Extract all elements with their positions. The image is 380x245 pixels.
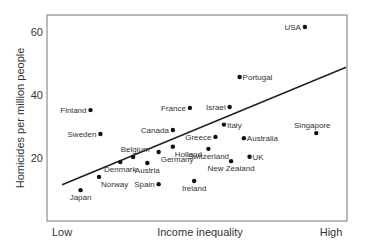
y-tick-label: 60: [31, 26, 43, 38]
data-point-marker: [188, 106, 192, 110]
data-point-label: Israel: [206, 103, 226, 112]
data-point-marker: [171, 128, 175, 132]
data-point-label: New Zealand: [208, 164, 255, 173]
data-point-marker: [97, 175, 101, 179]
y-axis-label: Homicides per million people: [14, 48, 26, 189]
data-points: USAPortugalFinlandFranceIsraelSwedenCana…: [60, 23, 331, 202]
data-point-label: Finland: [60, 106, 86, 115]
data-point-label: Canada: [141, 126, 170, 135]
data-point-label: Italy: [227, 121, 242, 130]
data-point-marker: [156, 182, 160, 186]
point-japan: Japan: [70, 188, 92, 202]
point-norway: Norway: [97, 175, 128, 189]
data-point-label: Singapore: [294, 121, 331, 130]
data-point-marker: [145, 161, 149, 165]
data-point-label: Norway: [101, 180, 128, 189]
data-point-marker: [213, 135, 217, 139]
point-italy: Italy: [222, 121, 242, 130]
data-point-label: UK: [253, 153, 265, 162]
data-point-label: Ireland: [182, 184, 206, 193]
point-denmark: Denmark: [104, 160, 137, 174]
data-point-label: Austria: [135, 166, 160, 175]
point-israel: Israel: [206, 103, 232, 112]
data-point-marker: [156, 150, 160, 154]
point-austria: Austria: [135, 161, 160, 175]
data-point-marker: [237, 75, 241, 79]
data-point-label: Spain: [134, 180, 154, 189]
data-point-label: Germany: [161, 155, 194, 164]
data-point-marker: [229, 159, 233, 163]
point-new-zealand: New Zealand: [208, 159, 255, 173]
x-tick-low: Low: [52, 226, 72, 238]
point-france: France: [161, 104, 192, 113]
point-portugal: Portugal: [237, 73, 272, 82]
scatter-chart: Homicides per million people 204060 Low …: [0, 0, 380, 245]
data-point-marker: [242, 136, 246, 140]
data-point-marker: [247, 155, 251, 159]
point-belgium: Belgium: [121, 145, 150, 159]
data-point-marker: [171, 144, 175, 148]
data-point-marker: [303, 25, 307, 29]
data-point-marker: [192, 179, 196, 183]
data-point-label: Sweden: [68, 130, 97, 139]
data-point-marker: [314, 131, 318, 135]
point-spain: Spain: [134, 180, 161, 189]
point-greece: Greece: [185, 133, 217, 142]
point-canada: Canada: [141, 126, 175, 135]
data-point-label: Greece: [185, 133, 212, 142]
point-uk: UK: [247, 153, 264, 162]
data-point-label: Switzerland: [188, 152, 229, 161]
data-point-marker: [88, 108, 92, 112]
data-point-marker: [206, 147, 210, 151]
x-axis-label: Income inequality: [157, 226, 243, 238]
data-point-label: Portugal: [243, 73, 273, 82]
point-australia: Australia: [242, 134, 279, 143]
data-point-marker: [118, 160, 122, 164]
y-ticks: 204060: [31, 26, 43, 164]
data-point-marker: [131, 155, 135, 159]
data-point-marker: [98, 132, 102, 136]
y-tick-label: 20: [31, 152, 43, 164]
x-tick-high: High: [320, 226, 343, 238]
data-point-label: Australia: [247, 134, 279, 143]
point-ireland: Ireland: [182, 179, 206, 193]
point-singapore: Singapore: [294, 121, 331, 135]
data-point-marker: [227, 105, 231, 109]
data-point-label: Denmark: [104, 165, 137, 174]
data-point-label: Belgium: [121, 145, 150, 154]
point-usa: USA: [284, 23, 307, 32]
y-tick-label: 40: [31, 89, 43, 101]
data-point-marker: [78, 188, 82, 192]
data-point-marker: [222, 122, 226, 126]
point-sweden: Sweden: [68, 130, 103, 139]
data-point-label: Japan: [70, 193, 92, 202]
point-finland: Finland: [60, 106, 92, 115]
data-point-label: France: [161, 104, 186, 113]
data-point-label: USA: [284, 23, 301, 32]
